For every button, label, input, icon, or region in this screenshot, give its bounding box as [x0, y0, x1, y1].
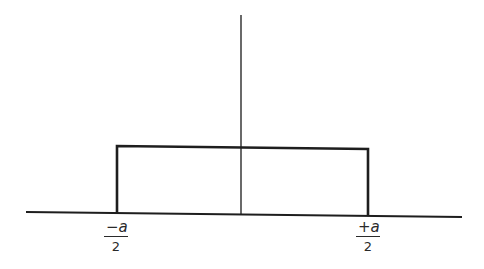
- right-edge-label: +a 2: [353, 219, 383, 255]
- right-edge-numerator: +a: [356, 219, 380, 237]
- left-edge-denominator: 2: [101, 239, 131, 255]
- right-edge-denominator: 2: [353, 239, 383, 255]
- pulse-outline: [117, 146, 368, 215]
- left-edge-label: −a 2: [101, 219, 131, 255]
- horizontal-axis: [26, 212, 462, 217]
- left-edge-numerator: −a: [104, 219, 128, 237]
- rect-pulse-diagram: [0, 0, 484, 269]
